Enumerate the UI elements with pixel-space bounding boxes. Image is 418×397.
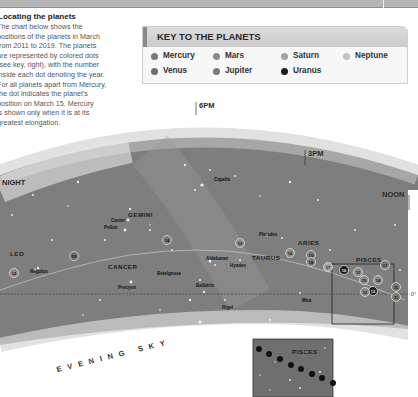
- star-pollux: Pollux: [104, 225, 118, 230]
- time-label-night: NIGHT: [2, 178, 25, 187]
- svg-text:12: 12: [12, 271, 17, 276]
- time-label-noon: NOON: [382, 190, 405, 199]
- mars-dot-icon: [213, 53, 220, 60]
- neptune-dot-icon: [343, 53, 350, 60]
- star-aldebaran: Aldebaran: [206, 256, 228, 261]
- time-label-3pm: 3PM: [308, 149, 323, 158]
- svg-text:15: 15: [362, 278, 367, 283]
- key-item-saturn: Saturn: [281, 51, 319, 61]
- header-divider: [383, 0, 384, 8]
- svg-text:15: 15: [72, 254, 77, 259]
- time-label-6pm: 6PM: [199, 101, 214, 110]
- svg-text:12: 12: [363, 290, 368, 295]
- sky-map-graphic: 12 15 14 13 16 19 18 17 16 11 17 15 14 1…: [0, 88, 418, 397]
- key-grid: Mercury Venus Mars Jupiter Saturn Uranus…: [143, 47, 407, 83]
- constellation-cancer: CANCER: [108, 263, 137, 270]
- key-label: Jupiter: [225, 66, 252, 76]
- key-label: Neptune: [355, 51, 388, 61]
- star-capella: Capella: [214, 177, 230, 182]
- svg-text:19: 19: [309, 253, 314, 258]
- star-betelgeuse: Betelgeuse: [157, 271, 181, 276]
- key-label: Mercury: [163, 51, 195, 61]
- constellation-leo: LEO: [10, 250, 24, 257]
- star-bellatrix: Bellatrix: [196, 283, 214, 288]
- star-mira: Mira: [302, 298, 311, 303]
- key-item-uranus: Uranus: [281, 66, 321, 76]
- key-item-mercury: Mercury: [151, 51, 195, 61]
- uranus-dot-icon: [281, 68, 288, 75]
- key-label: Saturn: [293, 51, 319, 61]
- svg-text:17: 17: [383, 263, 388, 268]
- key-item-jupiter: Jupiter: [213, 66, 252, 76]
- key-item-mars: Mars: [213, 51, 244, 61]
- constellation-aries: ARIES: [298, 239, 319, 246]
- key-item-neptune: Neptune: [343, 51, 388, 61]
- constellation-taurus: TAURUS: [252, 254, 280, 261]
- key-item-venus: Venus: [151, 66, 187, 76]
- svg-text:16: 16: [288, 251, 293, 256]
- star-pleiades: Pleiades: [259, 232, 277, 237]
- star-regulus: Regulus: [30, 269, 48, 274]
- star-hyades: Hyades: [230, 263, 246, 268]
- star-rigel: Rigel: [222, 305, 233, 310]
- svg-text:13: 13: [238, 241, 243, 246]
- svg-text:14: 14: [165, 238, 170, 243]
- planet-key: KEY TO THE PLANETS Mercury Venus Mars Ju…: [142, 26, 408, 84]
- equator-degree-label: 0°: [411, 291, 416, 297]
- key-title: KEY TO THE PLANETS: [143, 27, 407, 47]
- svg-text:14: 14: [376, 278, 381, 283]
- star-procyon: Procyon: [118, 285, 136, 290]
- svg-text:13: 13: [371, 289, 376, 294]
- svg-text:18: 18: [309, 260, 314, 265]
- inset-title-pisces: PISCES: [292, 348, 318, 355]
- venus-dot-icon: [151, 68, 158, 75]
- constellation-gemini: GEMINI: [128, 211, 153, 218]
- constellation-pisces: PISCES: [356, 256, 382, 263]
- key-label: Mars: [225, 51, 244, 61]
- key-label: Uranus: [293, 66, 321, 76]
- key-label: Venus: [163, 66, 187, 76]
- saturn-dot-icon: [281, 53, 288, 60]
- intro-title: Locating the planets: [0, 12, 170, 22]
- jupiter-dot-icon: [213, 68, 220, 75]
- svg-text:17: 17: [326, 265, 331, 270]
- mercury-dot-icon: [151, 53, 158, 60]
- sky-chart: 12 15 14 13 16 19 18 17 16 11 17 15 14 1…: [0, 88, 418, 397]
- svg-text:16: 16: [342, 268, 347, 273]
- page-header-bar: [0, 0, 418, 8]
- star-castor: Castor: [111, 218, 125, 223]
